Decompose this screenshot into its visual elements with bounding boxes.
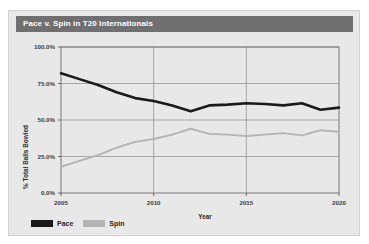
series-line-spin	[61, 129, 339, 167]
chart-y-tick-labels: 0.0%25.0%50.0%75.0%100.0%	[34, 43, 55, 196]
line-chart-svg: 0.0%25.0%50.0%75.0%100.0% 20052010201520…	[9, 33, 359, 235]
legend-label-pace: Pace	[57, 220, 73, 227]
legend-swatch-pace	[31, 220, 53, 227]
chart-gridlines	[61, 47, 339, 193]
chart-x-tick-labels: 2005201020152020	[54, 199, 346, 206]
legend-swatch-spin	[83, 220, 105, 227]
x-axis-title: Year	[198, 213, 212, 220]
x-tick-label: 2015	[239, 199, 253, 206]
legend-label-spin: Spin	[109, 220, 124, 227]
y-tick-label: 75.0%	[37, 80, 55, 87]
y-tick-label: 100.0%	[34, 43, 55, 50]
x-tick-label: 2005	[54, 199, 68, 206]
chart-screenshot: Pace v. Spin in T20 Internationals 0.0%2…	[0, 0, 369, 244]
legend-item-spin[interactable]: Spin	[83, 220, 124, 227]
x-tick-label: 2020	[332, 199, 346, 206]
series-line-pace	[61, 73, 339, 111]
legend-item-pace[interactable]: Pace	[31, 220, 73, 227]
y-tick-label: 25.0%	[37, 153, 55, 160]
y-tick-label: 0.0%	[41, 189, 56, 196]
plot-area: 0.0%25.0%50.0%75.0%100.0% 20052010201520…	[9, 33, 359, 235]
y-tick-label: 50.0%	[37, 116, 55, 123]
chart-card: Pace v. Spin in T20 Internationals 0.0%2…	[8, 10, 360, 236]
chart-tick-marks	[58, 47, 339, 196]
chart-legend: Pace Spin	[31, 220, 125, 227]
x-tick-label: 2010	[147, 199, 161, 206]
chart-title-bar: Pace v. Spin in T20 Internationals	[16, 16, 353, 32]
y-axis-title: % Total Balls Bowled	[22, 125, 29, 189]
page-title: Pace v. Spin in T20 Internationals	[23, 19, 153, 28]
